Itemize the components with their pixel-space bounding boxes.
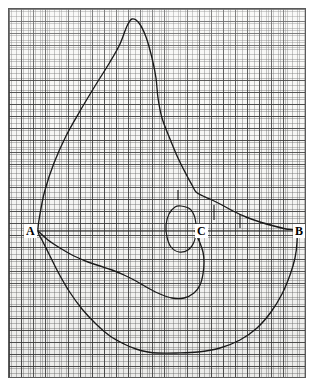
label-point-b: B (293, 224, 305, 238)
label-point-c: C (195, 224, 208, 238)
graph-paper-frame (8, 8, 306, 378)
figure-root: A C B (0, 0, 315, 391)
label-point-a: A (24, 224, 37, 238)
grid-lines (9, 9, 305, 377)
